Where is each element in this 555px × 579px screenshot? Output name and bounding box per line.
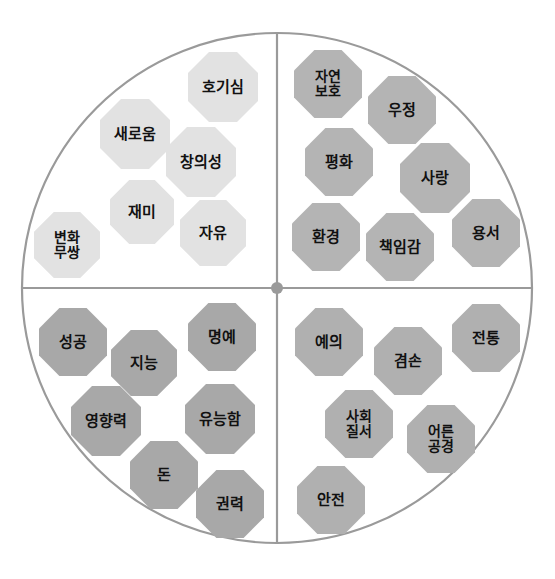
value-octagon-label: 용서 bbox=[470, 225, 502, 241]
value-octagon-label: 책임감 bbox=[377, 239, 422, 255]
value-octagon-label: 우정 bbox=[386, 102, 418, 118]
value-octagon[interactable]: 영향력 bbox=[71, 386, 141, 456]
value-octagon-label: 자연 보호 bbox=[313, 69, 343, 99]
circle-outline-svg bbox=[0, 0, 555, 579]
value-octagon[interactable]: 용서 bbox=[452, 199, 520, 267]
value-octagon[interactable]: 우정 bbox=[368, 76, 436, 144]
value-octagon[interactable]: 전통 bbox=[452, 304, 520, 372]
value-octagon-label: 재미 bbox=[126, 204, 158, 220]
value-octagon[interactable]: 사랑 bbox=[400, 143, 470, 213]
value-octagon[interactable]: 안전 bbox=[297, 466, 365, 534]
value-octagon[interactable]: 호기심 bbox=[188, 52, 258, 122]
value-octagon[interactable]: 책임감 bbox=[366, 213, 434, 281]
value-octagon-label: 예의 bbox=[313, 334, 345, 350]
value-octagon[interactable]: 창의성 bbox=[166, 127, 236, 197]
value-octagon-label: 돈 bbox=[155, 467, 173, 483]
circle-container: 호기심새로움창의성재미자유변화 무쌍자연 보호우정평화사랑환경책임감용서성공지능… bbox=[0, 0, 555, 579]
value-octagon[interactable]: 평화 bbox=[305, 128, 373, 196]
value-octagon[interactable]: 겸손 bbox=[374, 327, 442, 395]
value-octagon[interactable]: 재미 bbox=[110, 180, 174, 244]
value-octagon[interactable]: 권력 bbox=[196, 470, 264, 538]
value-octagon-label: 환경 bbox=[310, 229, 342, 245]
value-octagon[interactable]: 유능함 bbox=[185, 384, 255, 454]
value-octagon-label: 사랑 bbox=[419, 170, 451, 186]
value-octagon[interactable]: 성공 bbox=[39, 308, 107, 376]
value-octagon[interactable]: 돈 bbox=[130, 441, 198, 509]
value-octagon-label: 유능함 bbox=[197, 411, 242, 427]
value-octagon-label: 안전 bbox=[315, 492, 347, 508]
value-octagon-label: 성공 bbox=[57, 334, 89, 350]
value-octagon-label: 변화 무쌍 bbox=[52, 230, 82, 260]
value-octagon-label: 새로움 bbox=[112, 126, 157, 142]
value-octagon[interactable]: 환경 bbox=[292, 203, 360, 271]
value-octagon-label: 권력 bbox=[214, 496, 246, 512]
value-octagon-label: 호기심 bbox=[200, 79, 245, 95]
value-octagon[interactable]: 사회 질서 bbox=[325, 390, 393, 458]
value-octagon-label: 지능 bbox=[128, 355, 160, 371]
value-octagon[interactable]: 예의 bbox=[295, 308, 363, 376]
value-octagon-label: 창의성 bbox=[178, 154, 223, 170]
value-octagon-label: 어른 공경 bbox=[426, 424, 456, 454]
value-octagon-label: 평화 bbox=[323, 154, 355, 170]
value-octagon[interactable]: 명예 bbox=[188, 303, 256, 371]
value-octagon[interactable]: 어른 공경 bbox=[407, 405, 475, 473]
value-octagon-label: 자유 bbox=[197, 225, 229, 241]
value-octagon[interactable]: 자연 보호 bbox=[294, 50, 362, 118]
value-octagon-label: 겸손 bbox=[392, 353, 424, 369]
value-octagon-label: 전통 bbox=[470, 330, 502, 346]
value-octagon[interactable]: 새로움 bbox=[100, 99, 170, 169]
value-octagon-label: 사회 질서 bbox=[344, 409, 374, 439]
value-octagon-label: 영향력 bbox=[83, 413, 128, 429]
center-dot bbox=[271, 282, 283, 294]
value-octagon-label: 명예 bbox=[206, 329, 238, 345]
values-circle-diagram: 호기심새로움창의성재미자유변화 무쌍자연 보호우정평화사랑환경책임감용서성공지능… bbox=[0, 0, 555, 579]
